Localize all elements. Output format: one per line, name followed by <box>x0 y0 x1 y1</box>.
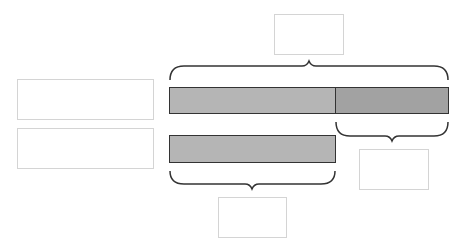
total-brace-icon <box>170 61 448 80</box>
difference-brace-icon <box>336 122 448 141</box>
bar-row-1-extra-segment <box>335 87 449 114</box>
bar-row-2-equal-segment <box>169 135 336 163</box>
row-1-label-box[interactable] <box>17 79 154 120</box>
row-2-label-box[interactable] <box>17 128 154 169</box>
clipped-header-text <box>0 0 467 3</box>
smaller-part-brace-icon <box>170 171 335 189</box>
total-answer-box[interactable] <box>274 14 344 55</box>
smaller-part-answer-box[interactable] <box>218 197 287 238</box>
bar-row-1-equal-segment <box>169 87 336 114</box>
difference-answer-box[interactable] <box>359 149 429 190</box>
